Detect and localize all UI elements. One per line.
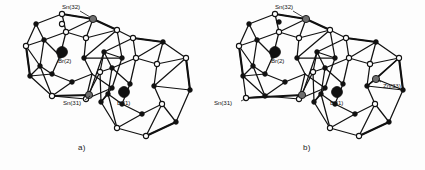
atom-node-br1 [332, 87, 343, 98]
atom-node-sn32 [89, 15, 96, 22]
panel-caption-b: b) [303, 143, 311, 152]
atom-label-br1-b: Br(1) [330, 99, 343, 106]
panel-caption-a: a) [78, 143, 86, 152]
atom-label-sn32-a: Sn(32) [62, 3, 80, 10]
figure-container: Sn(32) Br(2) Sn(31) Br(1) a) [0, 0, 425, 170]
panel-b: Sn(32) Br(2) Sn(31) Br(1) Zn(33) b) [213, 0, 425, 170]
atom-node-sn31 [85, 91, 92, 98]
panel-a: Sn(32) Br(2) Sn(31) Br(1) a) [0, 0, 212, 170]
atom-label-sn31-b: Sn(31) [214, 99, 232, 106]
atom-label-sn32-b: Sn(32) [275, 3, 293, 10]
atom-node-br2 [57, 47, 68, 58]
atom-label-sn31-a: Sn(31) [63, 99, 81, 106]
atom-node-zn33 [372, 75, 379, 82]
atom-label-br2-a: Br(2) [58, 57, 71, 64]
atom-node-sn32 [302, 15, 309, 22]
atom-label-zn33-b: Zn(33) [383, 82, 401, 89]
cluster-drawing-a [0, 0, 212, 170]
atom-node-sn31 [298, 91, 305, 98]
atom-node-br1 [119, 87, 130, 98]
atom-node-br2 [270, 47, 281, 58]
atom-label-br2-b: Br(2) [271, 57, 284, 64]
atom-label-br1-a: Br(1) [117, 99, 130, 106]
